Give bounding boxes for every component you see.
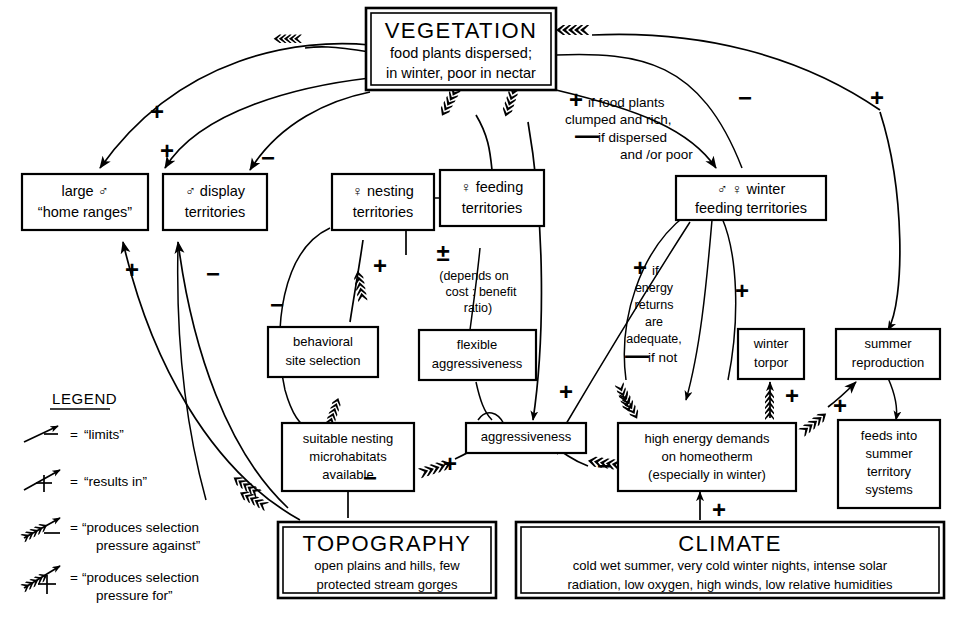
feather-into-vegetation-right	[556, 25, 589, 35]
display-line2: territories	[185, 204, 245, 220]
sign-suitable-to-aggressiveness: +	[443, 450, 457, 477]
sign-energy-to-summer-repro: +	[833, 392, 847, 419]
energy-returns-sign6: —	[625, 341, 649, 368]
feathered-arrow-minus-icon	[20, 518, 60, 542]
home-ranges-line1: large ♂	[61, 183, 108, 199]
node-behavioral-site-selection[interactable]: behavioral site selection	[268, 327, 378, 377]
sign-nesting-loop-minus: −	[270, 291, 284, 318]
edge-veg-to-home-ranges	[100, 44, 370, 168]
edge-energy-loop-right	[722, 218, 736, 380]
node-winter-feeding-territories[interactable]: ♂ ♀ winter feeding territories	[676, 176, 826, 220]
feeds-line2: summer	[866, 446, 914, 461]
cost-benefit-line1: (depends on	[439, 269, 509, 283]
winter-feeding-line1: ♂ ♀ winter	[717, 181, 786, 197]
legend-item-pressure-against: = “produces selection pressure against”	[20, 518, 200, 553]
feather-into-vegetation-left	[274, 35, 302, 44]
energy-returns-line2: energy	[635, 281, 674, 295]
annotation-cost-benefit: ± (depends on cost : benefit ratio)	[436, 239, 517, 315]
sign-veg-right-minus: −	[738, 84, 752, 111]
flexible-line1: flexible	[457, 337, 497, 352]
energy-returns-line1: if	[652, 263, 659, 278]
legend-title: LEGEND	[52, 390, 117, 407]
edge-display-down	[178, 246, 206, 500]
cost-benefit-line3: ratio)	[464, 301, 492, 315]
edge-veg-to-feeding-tail	[476, 115, 492, 170]
topography-heading: TOPOGRAPHY	[303, 531, 472, 556]
legend: LEGEND = “limits” = “results in”	[20, 390, 200, 603]
legend-item-results-in: = “results in”	[24, 470, 147, 492]
sign-energy-to-torpor: +	[785, 382, 799, 409]
topography-line1: open plains and hills, few	[314, 558, 460, 573]
climate-line1: cold wet summer, very cold winter nights…	[573, 558, 888, 573]
energy-returns-line4: are	[645, 315, 663, 329]
edge-aggressiveness-to-winter-feeding	[566, 222, 690, 424]
torpor-line1: winter	[753, 336, 789, 351]
energy-returns-line6: if not	[648, 350, 678, 365]
energy-line3: (especially in winter)	[648, 467, 766, 482]
edge-summer-repro-to-feeds-into	[888, 378, 897, 420]
node-summer-reproduction[interactable]: summer reproduction	[836, 329, 940, 379]
node-winter-torpor[interactable]: winter torpor	[738, 329, 804, 379]
sign-veg-far-right-plus: +	[870, 84, 884, 111]
topography-line2: protected stream gorges	[317, 577, 458, 592]
node-topography[interactable]: TOPOGRAPHY open plains and hills, few pr…	[278, 522, 496, 598]
vegetation-heading: VEGETATION	[385, 18, 538, 43]
legend-text-4a: “produces selection	[82, 570, 199, 585]
climate-line2: radiation, low oxygen, high winds, low r…	[567, 577, 893, 592]
flexible-line2: aggressiveness	[432, 356, 523, 371]
sign-veg-to-home-ranges: +	[150, 98, 164, 125]
feeds-line4: systems	[865, 482, 913, 497]
node-feeding-territories[interactable]: ♀ feeding territories	[440, 170, 544, 226]
node-display-territories[interactable]: ♂ display territories	[163, 174, 267, 230]
legend-text-3b: pressure against”	[96, 538, 200, 553]
legend-eq-3: =	[70, 520, 78, 535]
sign-energy-to-aggressiveness: −	[597, 452, 611, 479]
torpor-line2: torpor	[754, 355, 789, 370]
sign-flexible-to-aggressiveness: +	[559, 378, 573, 405]
sign-veg-to-display: +	[160, 137, 174, 164]
cost-benefit-sign: ±	[436, 239, 449, 266]
cost-benefit-line2: cost : benefit	[446, 285, 517, 299]
climate-heading: CLIMATE	[678, 531, 782, 556]
diagram-canvas: VEGETATION food plants dispersed; in win…	[0, 0, 960, 621]
energy-returns-sign1: +	[633, 254, 647, 281]
plain-arrow-minus-icon	[24, 426, 58, 442]
sign-veg-to-nesting: −	[261, 144, 275, 171]
node-aggressiveness[interactable]: aggressiveness	[466, 423, 586, 453]
feather-topo-display	[231, 474, 262, 498]
edge-veg-to-summer-reproduction	[880, 112, 900, 330]
diagram-svg: VEGETATION food plants dispersed; in win…	[0, 0, 960, 621]
food-plants-line4: and /or poor	[620, 147, 693, 162]
legend-eq-4: =	[70, 570, 78, 585]
sign-behavioral-to-nesting: +	[373, 252, 387, 279]
food-plants-line3: if dispersed	[598, 130, 667, 145]
node-climate[interactable]: CLIMATE cold wet summer, very cold winte…	[516, 522, 944, 598]
nesting-line2: territories	[353, 204, 413, 220]
legend-text-2: “results in”	[84, 474, 147, 489]
home-ranges-line2: “home ranges”	[38, 204, 132, 220]
food-plants-sign1: +	[569, 86, 583, 113]
summer-repro-line2: reproduction	[852, 355, 924, 370]
energy-line2: on homeotherm	[661, 449, 752, 464]
food-plants-line1: if food plants	[588, 95, 665, 110]
node-vegetation[interactable]: VEGETATION food plants dispersed; in win…	[366, 8, 556, 90]
feeds-line1: feeds into	[861, 428, 917, 443]
node-high-energy-demands[interactable]: high energy demands on homeotherm (espec…	[618, 423, 796, 491]
legend-eq-2: =	[70, 474, 78, 489]
legend-eq-1: =	[70, 427, 78, 442]
legend-item-limits: = “limits”	[24, 426, 124, 442]
energy-line1: high energy demands	[644, 431, 770, 446]
behavioral-line2: site selection	[285, 353, 360, 368]
display-line1: ♂ display	[185, 183, 246, 199]
sign-topo-to-suitable: −	[363, 464, 377, 491]
plain-arrow-plus-icon	[24, 470, 60, 492]
node-flexible-aggressiveness[interactable]: flexible aggressiveness	[419, 330, 536, 380]
node-suitable-nesting[interactable]: suitable nesting microhabitats available	[282, 423, 414, 491]
feathered-arrow-plus-icon	[20, 566, 60, 594]
suitable-line1: suitable nesting	[303, 431, 393, 446]
vegetation-line1: food plants dispersed;	[390, 45, 532, 61]
vegetation-line2: in winter, poor in nectar	[386, 65, 536, 81]
node-feeds-into[interactable]: feeds into summer territory systems	[838, 420, 940, 508]
node-home-ranges[interactable]: large ♂ “home ranges”	[22, 174, 148, 230]
node-nesting-territories[interactable]: ♀ nesting territories	[332, 174, 434, 230]
